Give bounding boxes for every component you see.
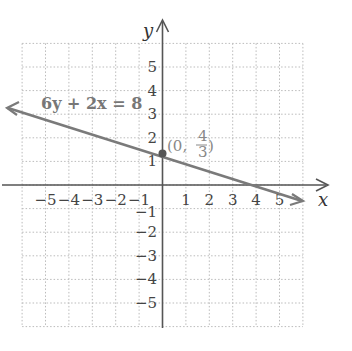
- y-tick-label: −2: [135, 223, 157, 241]
- y-tick-label: 5: [147, 58, 157, 76]
- y-tick-label: 3: [147, 105, 157, 123]
- y-tick-label: −4: [135, 270, 157, 288]
- x-tick-label: −5: [34, 191, 56, 209]
- x-tick-label: 1: [181, 191, 191, 209]
- point-label-prefix: (0,: [167, 137, 187, 155]
- x-tick-label: −4: [58, 191, 80, 209]
- y-tick-label: −5: [135, 294, 157, 312]
- y-tick-label: 2: [147, 129, 157, 147]
- y-intercept-point: [159, 150, 167, 158]
- x-tick-label: 2: [205, 191, 215, 209]
- equation-label: 6y + 2x = 8: [41, 94, 142, 113]
- point-label-denominator: 3: [198, 143, 208, 161]
- x-tick-label: −2: [105, 191, 127, 209]
- y-tick-label: −1: [135, 203, 157, 221]
- x-tick-label: 4: [251, 191, 261, 209]
- y-tick-label: 4: [147, 82, 157, 100]
- x-tick-label: 3: [228, 191, 238, 209]
- x-tick-labels: −5−4−3−2−112345: [34, 191, 284, 209]
- y-tick-label: −3: [135, 247, 157, 265]
- x-tick-label: −3: [81, 191, 103, 209]
- point-label-suffix: ): [208, 137, 214, 155]
- y-axis-label: y: [142, 20, 154, 41]
- coordinate-plane: x y −5−4−3−2−112345 54321−1−2−3−4−5 6y +…: [0, 0, 352, 351]
- x-axis-label: x: [318, 189, 328, 210]
